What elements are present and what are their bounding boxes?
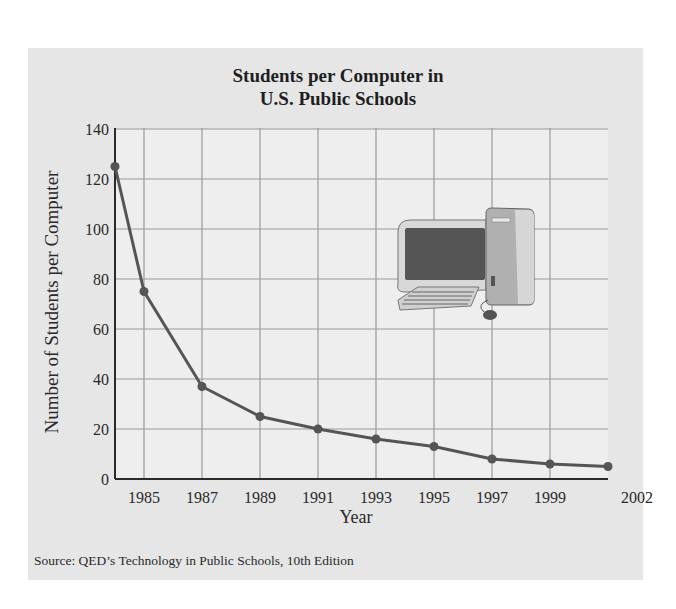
- x-tick-label: 1991: [302, 489, 334, 506]
- grid-lines: [115, 128, 608, 479]
- data-point-marker: [111, 162, 120, 171]
- data-point-marker: [140, 287, 149, 296]
- source-note: Source: QED’s Technology in Public Schoo…: [34, 553, 354, 569]
- x-tick-label: 1987: [186, 489, 218, 506]
- data-point-marker: [372, 435, 381, 444]
- y-axis-tick-labels: 020406080100120140: [85, 121, 109, 488]
- x-axis-tick-labels: 198519871989199119931995199719992002: [128, 489, 653, 506]
- y-tick-label: 0: [101, 471, 109, 488]
- data-point-marker: [488, 455, 497, 464]
- y-tick-label: 140: [85, 121, 109, 138]
- x-tick-label: 2002: [621, 489, 653, 506]
- data-point-marker: [546, 460, 555, 469]
- y-tick-label: 60: [93, 321, 109, 338]
- x-axis-label: Year: [339, 507, 372, 528]
- y-tick-label: 20: [93, 421, 109, 438]
- line-chart: 020406080100120140 198519871989199119931…: [0, 0, 676, 609]
- x-tick-label: 1997: [476, 489, 508, 506]
- data-point-marker: [314, 425, 323, 434]
- computer-illustration-icon: [398, 208, 534, 320]
- data-point-marker: [430, 442, 439, 451]
- x-tick-label: 1989: [244, 489, 276, 506]
- y-tick-label: 100: [85, 221, 109, 238]
- y-tick-label: 80: [93, 271, 109, 288]
- data-point-marker: [604, 462, 613, 471]
- data-point-marker: [198, 382, 207, 391]
- x-tick-label: 1993: [360, 489, 392, 506]
- x-tick-label: 1999: [534, 489, 566, 506]
- y-tick-label: 40: [93, 371, 109, 388]
- x-tick-label: 1985: [128, 489, 160, 506]
- x-tick-label: 1995: [418, 489, 450, 506]
- y-tick-label: 120: [85, 171, 109, 188]
- data-point-marker: [256, 412, 265, 421]
- y-axis-label: Number of Students per Computer: [41, 171, 63, 434]
